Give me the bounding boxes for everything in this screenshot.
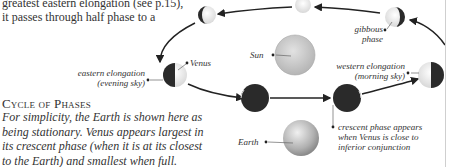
western-elongation-label: western elongation (morning sky) xyxy=(330,61,405,81)
arrow-western-to-gibbous xyxy=(410,20,445,45)
gibbous-phase-label: gibbous phase xyxy=(350,24,383,44)
venus-crescent-left-icon xyxy=(241,84,269,112)
earth-icon xyxy=(283,120,319,156)
venus-western-elongation-icon xyxy=(418,62,444,88)
crescent-note-label: crescent phase appears when Venus is clo… xyxy=(338,122,422,152)
page-edge-divider xyxy=(445,0,446,167)
venus-gibbous-icon xyxy=(385,7,405,27)
venus-top-crescent-icon xyxy=(198,6,216,24)
venus-full-icon xyxy=(295,0,311,13)
venus-crescent-right-icon xyxy=(333,84,361,112)
arrow-gibbous-to-full xyxy=(315,7,380,13)
arrow-eastern-to-crescent xyxy=(188,84,243,98)
earth-label: Earth xyxy=(238,137,259,147)
venus-eastern-elongation-icon xyxy=(163,63,187,87)
sun-label: Sun xyxy=(250,50,264,60)
arrow-top-to-eastern xyxy=(160,23,195,62)
eastern-elongation-label: eastern elongation (evening sky) xyxy=(70,68,145,88)
arrow-full-to-crescent-top xyxy=(218,7,292,14)
venus-label: Venus xyxy=(190,58,211,68)
arrow-crescent-to-western xyxy=(362,79,418,94)
